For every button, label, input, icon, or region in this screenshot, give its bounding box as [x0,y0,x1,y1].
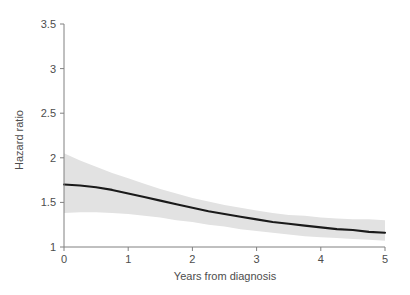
confidence-band [64,153,385,240]
y-tick-label: 3 [50,63,56,74]
y-axis-title: Hazard ratio [14,110,25,170]
y-axis-ticks [60,24,64,247]
x-tick-label: 4 [318,254,324,265]
x-tick-label: 3 [254,254,260,265]
y-tick-label: 1 [50,242,56,253]
hazard-ratio-chart: 11.522.533.5 012345 Years from diagnosis… [0,0,410,295]
x-axis-ticks [64,247,385,251]
y-tick-label: 1.5 [41,197,56,208]
x-axis-title: Years from diagnosis [174,271,276,282]
x-tick-label: 5 [382,254,388,265]
plot-area [0,0,410,295]
y-tick-label: 3.5 [41,19,56,30]
x-tick-label: 0 [61,254,67,265]
y-tick-label: 2 [50,152,56,163]
confidence-band-group [64,153,385,240]
x-tick-label: 1 [125,254,131,265]
x-tick-label: 2 [189,254,195,265]
y-tick-label: 2.5 [41,108,56,119]
